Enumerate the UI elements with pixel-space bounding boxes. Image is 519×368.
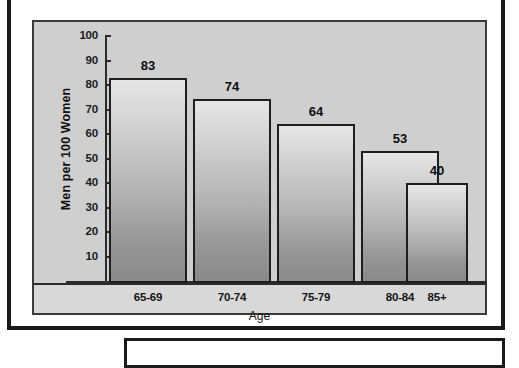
y-tick-label: 20	[86, 225, 105, 237]
lower-empty-box	[124, 338, 505, 368]
x-tick-label-65-69: 65-69	[109, 291, 187, 303]
y-tick-60: 60	[34, 127, 105, 141]
y-tick-label: 10	[86, 250, 105, 262]
y-tick-50: 50	[34, 152, 105, 166]
y-tick-label: 60	[86, 127, 105, 139]
y-tick-label: 70	[86, 103, 105, 115]
x-tick-label-85-plus: 85+	[406, 291, 468, 303]
x-axis-title: Age	[34, 309, 485, 323]
bar-value-75-79: 64	[277, 104, 355, 119]
x-axis-label-band: 65-69 70-74 75-79 80-84 85+ Age	[34, 283, 485, 313]
y-tick-label: 40	[86, 176, 105, 188]
plot-area: Men per 100 Women 100 90 80 70 60 50 40 …	[34, 22, 485, 283]
bar-value-70-74: 74	[193, 79, 271, 94]
y-tick-10: 10	[34, 250, 105, 264]
y-tick-label: 80	[86, 78, 105, 90]
y-tick-30: 30	[34, 201, 105, 215]
bar-70-74[interactable]	[193, 99, 271, 283]
y-tick-mark	[105, 35, 111, 37]
y-tick-label: 30	[86, 201, 105, 213]
x-tick-label-75-79: 75-79	[277, 291, 355, 303]
y-tick-label: 100	[79, 29, 105, 41]
y-axis-line	[105, 36, 107, 283]
y-tick-label: 50	[86, 152, 105, 164]
bar-value-65-69: 83	[109, 58, 187, 73]
bar-75-79[interactable]	[277, 124, 355, 283]
y-tick-20: 20	[34, 225, 105, 239]
bar-chart-panel: Men per 100 Women 100 90 80 70 60 50 40 …	[32, 20, 487, 315]
bar-value-85-plus: 40	[406, 163, 468, 178]
y-tick-90: 90	[34, 54, 105, 68]
y-tick-80: 80	[34, 78, 105, 92]
bar-65-69[interactable]	[109, 78, 187, 283]
y-tick-70: 70	[34, 103, 105, 117]
y-tick-label: 90	[86, 54, 105, 66]
x-tick-label-70-74: 70-74	[193, 291, 271, 303]
y-tick-40: 40	[34, 176, 105, 190]
bar-85-plus[interactable]	[406, 183, 468, 283]
y-tick-100: 100	[34, 29, 105, 43]
bar-value-80-84: 53	[361, 131, 439, 146]
